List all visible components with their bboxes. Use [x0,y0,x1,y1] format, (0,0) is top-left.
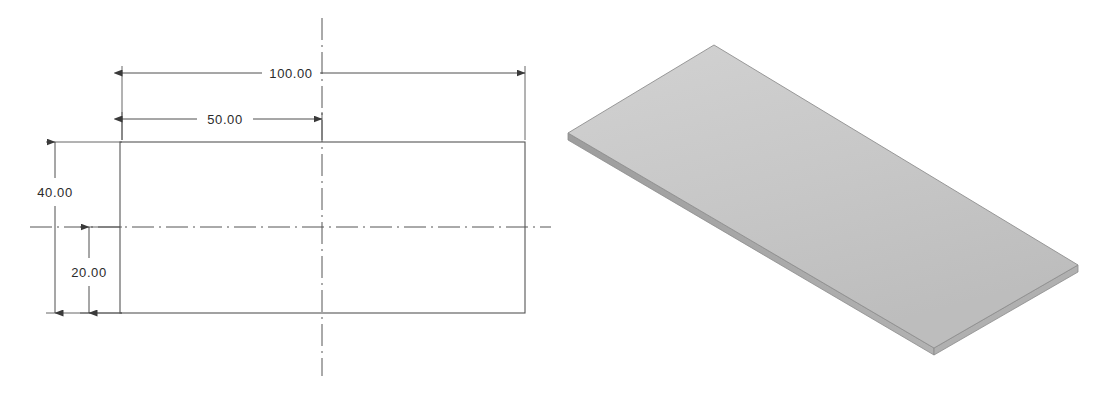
isometric-view[interactable] [568,45,1078,355]
dimension-half-length[interactable]: 50.00 [122,112,322,140]
dimension-label-half-height[interactable]: 20.00 [71,265,107,280]
engineering-drawing-page: 100.00 50.00 40.00 20.00 [0,0,1111,396]
dimension-half-height[interactable]: 20.00 [71,227,122,313]
dimension-overall-length[interactable]: 100.00 [122,66,525,140]
dimension-label-half-length[interactable]: 50.00 [207,112,243,127]
cad-drawing-canvas[interactable]: 100.00 50.00 40.00 20.00 [0,0,1111,396]
dimension-label-overall-length[interactable]: 100.00 [269,66,312,81]
dimension-label-overall-height[interactable]: 40.00 [37,185,73,200]
isometric-top-face [568,45,1078,348]
